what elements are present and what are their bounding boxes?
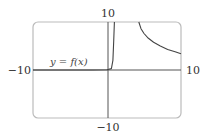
function-graph: 10 −10 −10 10 y = f(x): [0, 0, 203, 139]
x-min-label: −10: [8, 64, 31, 77]
curve-segment: [139, 22, 181, 54]
y-max-label: 10: [101, 7, 115, 20]
y-min-label: −10: [96, 121, 119, 134]
x-max-label: 10: [186, 64, 200, 77]
function-label: y = f(x): [49, 56, 88, 67]
